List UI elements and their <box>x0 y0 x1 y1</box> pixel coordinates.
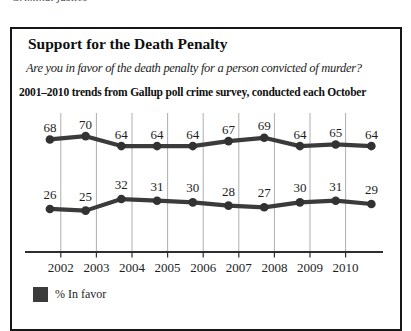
legend-swatch-in-favor <box>33 287 48 302</box>
figure-panel: Support for the Death Penalty Are you in… <box>10 27 402 331</box>
legend: % In favor <box>33 287 106 302</box>
figure-title: Support for the Death Penalty <box>28 35 228 53</box>
legend-label-in-favor: % In favor <box>55 287 106 302</box>
survey-note: 2001–2010 trends from Gallup poll crime … <box>19 86 366 98</box>
survey-question: Are you in favor of the death penalty fo… <box>26 61 362 76</box>
cropped-header-text: Criminal justice <box>12 0 182 4</box>
cropped-header-label: Criminal justice <box>12 0 182 4</box>
